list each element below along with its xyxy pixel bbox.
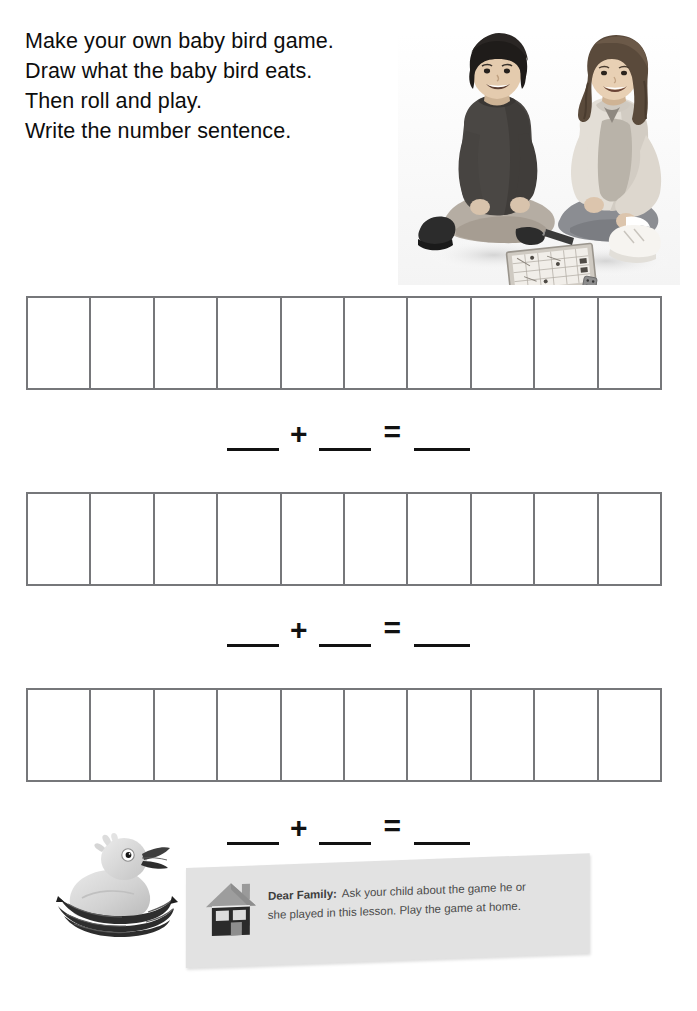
grid-cell[interactable] — [91, 298, 154, 388]
grid-cell[interactable] — [472, 298, 535, 388]
grid-cell[interactable] — [599, 298, 660, 388]
answer-blank-addend-1[interactable] — [227, 644, 279, 647]
ten-frame-row-3[interactable] — [26, 688, 662, 782]
grid-cell[interactable] — [218, 298, 281, 388]
plus-sign: + — [290, 419, 308, 449]
grid-cell[interactable] — [472, 690, 535, 780]
dear-family-note: Dear Family:Ask your child about the gam… — [186, 868, 590, 976]
worksheet-page: Make your own baby bird game. Draw what … — [0, 0, 697, 1011]
answer-blank-sum[interactable] — [414, 644, 470, 647]
grid-cell[interactable] — [155, 690, 218, 780]
answer-blank-addend-2[interactable] — [319, 644, 371, 647]
answer-blank-addend-1[interactable] — [227, 842, 279, 845]
grid-cell[interactable] — [535, 690, 598, 780]
answer-blank-addend-1[interactable] — [227, 448, 279, 451]
ten-frame-row-2[interactable] — [26, 492, 662, 586]
answer-blank-sum[interactable] — [414, 842, 470, 845]
baby-bird-in-nest-illustration — [52, 832, 188, 938]
answer-blank-sum[interactable] — [414, 448, 470, 451]
answer-blank-addend-2[interactable] — [319, 448, 371, 451]
grid-cell[interactable] — [282, 494, 345, 584]
equals-sign: = — [384, 417, 402, 447]
grid-cell[interactable] — [345, 494, 408, 584]
note-card-content: Dear Family:Ask your child about the gam… — [186, 853, 590, 968]
number-sentence-1: + = — [0, 412, 697, 456]
ten-frame-row-1[interactable] — [26, 296, 662, 390]
answer-blank-addend-2[interactable] — [319, 842, 371, 845]
plus-sign: + — [290, 615, 308, 645]
grid-cell[interactable] — [282, 690, 345, 780]
grid-cell[interactable] — [218, 690, 281, 780]
instruction-line-2: Draw what the baby bird eats. — [25, 56, 395, 86]
grid-cell[interactable] — [91, 494, 154, 584]
grid-cell[interactable] — [91, 690, 154, 780]
house-icon — [204, 879, 258, 939]
instruction-line-1: Make your own baby bird game. — [25, 26, 395, 56]
family-note-label: Dear Family: — [268, 887, 337, 902]
family-note-line-1-text: Ask your child about the game he or — [342, 881, 526, 900]
grid-cell[interactable] — [28, 298, 91, 388]
equals-sign: = — [384, 613, 402, 643]
grid-cell[interactable] — [472, 494, 535, 584]
grid-cell[interactable] — [599, 494, 660, 584]
grid-cell[interactable] — [535, 298, 598, 388]
instruction-block: Make your own baby bird game. Draw what … — [25, 26, 395, 146]
grid-cell[interactable] — [345, 298, 408, 388]
grid-cell[interactable] — [408, 494, 471, 584]
plus-sign: + — [290, 813, 308, 843]
grid-cell[interactable] — [28, 494, 91, 584]
number-sentence-2: + = — [0, 608, 697, 652]
grid-cell[interactable] — [155, 298, 218, 388]
grid-cell[interactable] — [282, 298, 345, 388]
equals-sign: = — [384, 811, 402, 841]
grid-cell[interactable] — [28, 690, 91, 780]
grid-cell[interactable] — [408, 690, 471, 780]
grid-cell[interactable] — [535, 494, 598, 584]
grid-cell[interactable] — [218, 494, 281, 584]
grid-cell[interactable] — [345, 690, 408, 780]
grid-cell[interactable] — [599, 690, 660, 780]
family-note-text: Dear Family:Ask your child about the gam… — [268, 876, 576, 925]
instruction-line-3: Then roll and play. — [25, 86, 395, 116]
instruction-line-4: Write the number sentence. — [25, 116, 395, 146]
grid-cell[interactable] — [408, 298, 471, 388]
children-playing-photo — [398, 33, 680, 285]
grid-cell[interactable] — [155, 494, 218, 584]
